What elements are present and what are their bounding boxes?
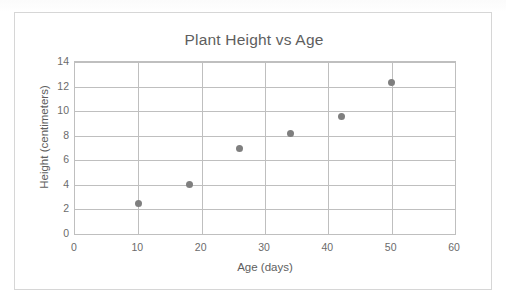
data-point [186, 181, 193, 188]
x-axis-tick-label: 20 [181, 241, 221, 253]
chart-title: Plant Height vs Age [15, 31, 493, 49]
x-axis-title: Age (days) [74, 261, 456, 273]
gridline-vertical [328, 62, 329, 234]
y-axis-tick-label: 12 [41, 80, 69, 92]
data-point [388, 79, 395, 86]
y-axis-tick-label: 0 [41, 227, 69, 239]
x-axis-tick-label: 30 [244, 241, 284, 253]
y-axis-tick-label: 14 [41, 55, 69, 67]
data-point [236, 145, 243, 152]
gridline-vertical [138, 62, 139, 234]
data-point [287, 130, 294, 137]
gridline-vertical [202, 62, 203, 234]
gridline-vertical [392, 62, 393, 234]
x-axis-tick-label: 40 [307, 241, 347, 253]
plot-area [74, 61, 456, 235]
data-point [135, 200, 142, 207]
y-axis-tick-label: 10 [41, 104, 69, 116]
y-axis-tick-label: 4 [41, 178, 69, 190]
scan-artifact-strip [0, 0, 506, 12]
x-axis-tick-labels: 0102030405060 [74, 241, 456, 257]
data-point [338, 113, 345, 120]
x-axis-tick-label: 60 [434, 241, 474, 253]
y-axis-tick-label: 6 [41, 153, 69, 165]
gridline-horizontal [75, 234, 455, 235]
x-axis-tick-label: 10 [117, 241, 157, 253]
x-axis-tick-label: 50 [371, 241, 411, 253]
chart-frame: Plant Height vs Age Height (centimeters)… [14, 12, 492, 290]
x-axis-tick-label: 0 [54, 241, 94, 253]
y-axis-tick-label: 8 [41, 129, 69, 141]
y-axis-tick-label: 2 [41, 202, 69, 214]
gridline-vertical [265, 62, 266, 234]
y-axis-tick-labels: 02468101214 [37, 61, 69, 235]
